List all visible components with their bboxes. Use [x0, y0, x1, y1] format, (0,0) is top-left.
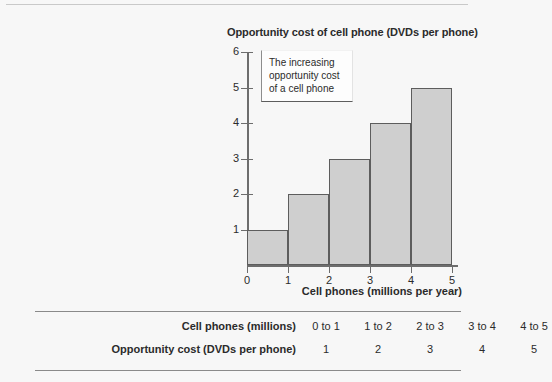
y-tick-3 — [241, 159, 253, 160]
x-tick-2 — [329, 265, 330, 273]
page-top-divider — [6, 4, 468, 5]
y-tick-label-5: 5 — [225, 82, 239, 93]
table-cell-r0-c2: 2 to 3 — [404, 320, 456, 332]
table-cell-r1-c1: 2 — [352, 343, 404, 355]
bar-0-to-1 — [247, 230, 288, 266]
y-tick-label-1: 1 — [225, 224, 239, 235]
table-cell-r1-c0: 1 — [300, 343, 352, 355]
x-tick-label-0: 0 — [237, 274, 257, 286]
table-bottom-rule — [35, 370, 461, 371]
y-tick-label-2: 2 — [225, 188, 239, 199]
y-tick-6 — [241, 52, 253, 53]
x-tick-0 — [247, 265, 248, 273]
y-tick-4 — [241, 123, 253, 124]
x-tick-4 — [411, 265, 412, 273]
bar-1-to-2 — [288, 194, 329, 265]
bar-4-to-5 — [411, 88, 452, 266]
table-row-label-opportunity-cost: Opportunity cost (DVDs per phone) — [35, 343, 296, 355]
table-row: Cell phones (millions) 0 to 1 1 to 2 2 t… — [35, 320, 461, 340]
bar-3-to-4 — [370, 123, 411, 265]
x-tick-1 — [288, 265, 289, 273]
y-tick-5 — [241, 88, 253, 89]
x-axis-caption: Cell phones (millions per year) — [262, 285, 462, 297]
table-cell-r0-c0: 0 to 1 — [300, 320, 352, 332]
table-cell-r1-c2: 3 — [404, 343, 456, 355]
x-tick-5 — [452, 265, 453, 273]
table-cell-r0-c4: 4 to 5 — [508, 320, 552, 332]
y-tick-label-4: 4 — [225, 117, 239, 128]
x-axis-line — [247, 265, 458, 267]
table-row-label-cell-phones: Cell phones (millions) — [35, 320, 296, 332]
chart-title: Opportunity cost of cell phone (DVDs per… — [227, 26, 467, 38]
table-cell-r1-c4: 5 — [508, 343, 552, 355]
y-tick-2 — [241, 194, 253, 195]
y-tick-label-3: 3 — [225, 153, 239, 164]
table-row: Opportunity cost (DVDs per phone) 1 2 3 … — [35, 343, 461, 363]
table-cell-r1-c3: 4 — [456, 343, 508, 355]
table-top-rule — [35, 311, 461, 312]
y-tick-label-6: 6 — [225, 46, 239, 57]
table-cell-r0-c3: 3 to 4 — [456, 320, 508, 332]
bar-2-to-3 — [329, 159, 370, 266]
table-cell-r0-c1: 1 to 2 — [352, 320, 404, 332]
chart-annotation-box: The increasing opportunity cost of a cel… — [261, 50, 353, 102]
x-tick-3 — [370, 265, 371, 273]
